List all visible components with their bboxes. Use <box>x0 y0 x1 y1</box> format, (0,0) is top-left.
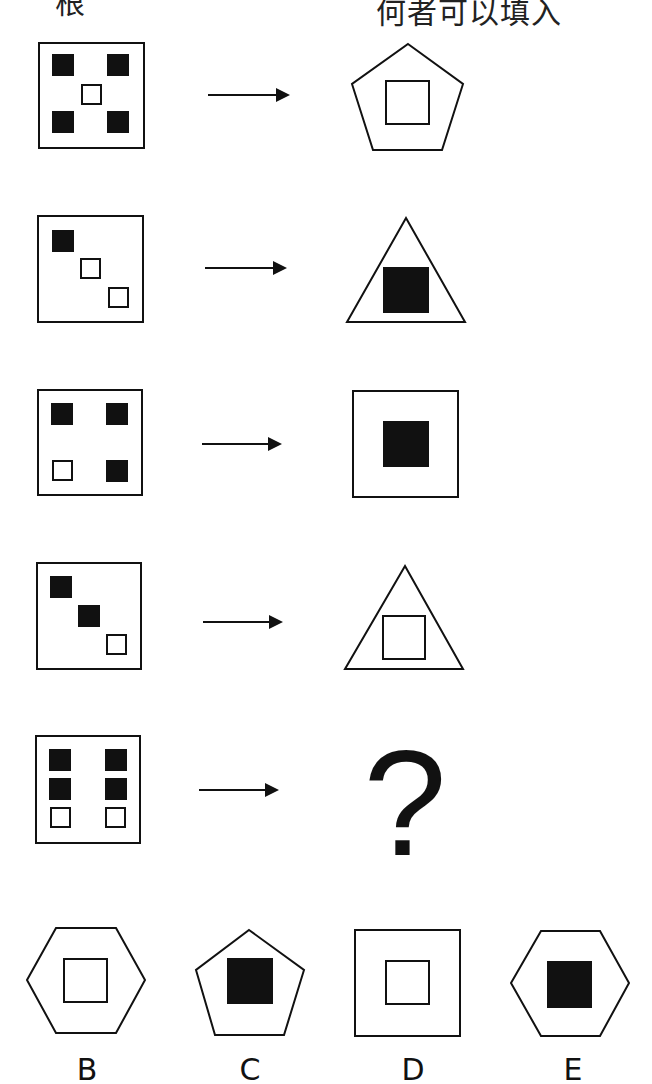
black-square <box>106 750 126 770</box>
black-square <box>384 422 428 466</box>
black-square <box>108 112 128 132</box>
question-mark: ? <box>363 728 446 878</box>
black-square <box>106 779 126 799</box>
row-3-output-figure <box>353 391 458 497</box>
white-square <box>106 808 125 827</box>
black-square <box>228 959 272 1003</box>
white-square <box>82 85 101 104</box>
row-2-output-figure <box>347 218 465 322</box>
white-square <box>386 961 429 1004</box>
row-4-output-figure <box>345 566 463 669</box>
option-d-figure[interactable] <box>355 930 460 1036</box>
white-square <box>53 461 72 480</box>
row-1-input-figure <box>39 43 144 148</box>
right-arrow-icon <box>199 783 279 797</box>
white-square <box>51 808 70 827</box>
option-label-d[interactable]: D <box>401 1052 424 1084</box>
row-1-output-figure <box>352 44 463 150</box>
option-c-figure[interactable] <box>196 930 304 1035</box>
option-label-b[interactable]: B <box>77 1052 98 1084</box>
black-square <box>107 461 127 481</box>
row-2-input-figure <box>38 216 143 322</box>
row-4 <box>37 563 463 669</box>
option-label-e[interactable]: E <box>564 1052 583 1084</box>
black-square <box>384 268 428 312</box>
black-square <box>107 404 127 424</box>
option-label-c[interactable]: C <box>240 1052 261 1084</box>
option-b-figure[interactable] <box>27 928 145 1033</box>
black-square <box>51 577 71 597</box>
black-square <box>53 55 73 75</box>
right-arrow-icon <box>205 261 287 275</box>
black-square <box>52 404 72 424</box>
row-4-input-figure <box>37 563 141 669</box>
right-arrow-icon <box>202 437 282 451</box>
black-square <box>108 55 128 75</box>
black-square <box>50 779 70 799</box>
black-square <box>50 750 70 770</box>
black-square <box>79 606 99 626</box>
black-square <box>53 231 73 251</box>
row-5 <box>36 736 279 843</box>
white-square <box>109 288 128 307</box>
right-arrow-icon <box>203 615 283 629</box>
row-2 <box>38 216 465 322</box>
row-5-input-figure <box>36 736 140 843</box>
black-square <box>548 962 591 1007</box>
white-square <box>107 635 126 654</box>
right-arrow-icon <box>208 88 290 102</box>
row-1 <box>39 43 463 150</box>
white-square <box>386 81 429 124</box>
option-e-figure[interactable] <box>511 931 629 1036</box>
white-square <box>64 959 107 1002</box>
white-square <box>383 616 425 659</box>
row-3 <box>38 390 458 497</box>
white-square <box>81 259 100 278</box>
row-3-input-figure <box>38 390 142 495</box>
black-square <box>53 112 73 132</box>
